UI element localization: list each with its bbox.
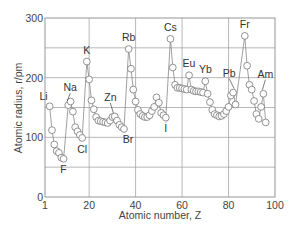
element-label-am: Am — [258, 68, 274, 80]
data-point — [155, 99, 162, 106]
element-label-cs: Cs — [164, 21, 177, 33]
data-point — [121, 126, 128, 133]
data-point — [255, 115, 262, 122]
data-point — [125, 46, 132, 53]
x-axis-label: Atomic number, Z — [119, 209, 202, 221]
element-label-cl: Cl — [77, 143, 87, 155]
data-point — [248, 86, 255, 93]
data-point — [46, 103, 53, 110]
data-point — [83, 58, 90, 65]
data-point — [167, 35, 174, 42]
element-label-zn: Zn — [104, 91, 116, 103]
data-point — [88, 97, 95, 104]
data-point — [79, 135, 86, 142]
data-point — [260, 90, 267, 97]
element-label-f: F — [60, 163, 66, 175]
x-tick-label: 80 — [223, 199, 235, 211]
data-point — [230, 89, 237, 96]
leader-line — [262, 80, 265, 90]
data-point — [132, 98, 139, 105]
leader-line — [110, 103, 113, 113]
element-label-na: Na — [64, 81, 78, 93]
data-point — [128, 65, 135, 72]
data-point — [60, 155, 67, 162]
data-point — [186, 72, 193, 79]
leader-line — [229, 79, 234, 89]
data-point — [202, 78, 209, 85]
data-point — [69, 108, 76, 115]
data-point — [49, 127, 56, 134]
element-label-yb: Yb — [199, 63, 212, 75]
data-point — [86, 76, 93, 83]
series-line — [124, 49, 129, 129]
series-line — [236, 36, 245, 105]
data-point — [244, 62, 251, 69]
y-axis-label: Atomic radius, r/pm — [12, 63, 24, 154]
y-tick-label: 300 — [25, 12, 43, 24]
element-label-eu: Eu — [183, 57, 196, 69]
atomic-radius-chart: LiNaFClKZnBrRbICsEuYbPbFrAm 120406080100… — [0, 0, 291, 237]
series-line — [166, 39, 171, 118]
y-tick-label: 0 — [37, 191, 43, 203]
element-label-rb: Rb — [122, 31, 136, 43]
data-point — [130, 86, 137, 93]
series-line — [64, 105, 69, 159]
data-point — [251, 98, 258, 105]
y-tick-label: 200 — [25, 72, 43, 84]
data-point — [225, 104, 232, 111]
element-label-li: Li — [39, 90, 47, 102]
data-point — [51, 141, 58, 148]
data-point — [90, 106, 97, 113]
data-point — [262, 119, 269, 126]
element-label-k: K — [83, 44, 90, 56]
x-tick-label: 20 — [83, 199, 95, 211]
data-point — [241, 33, 248, 40]
series-line — [82, 62, 87, 138]
element-label-pb: Pb — [223, 67, 236, 79]
element-label-fr: Fr — [240, 18, 250, 30]
data-point — [204, 90, 211, 97]
data-point — [169, 64, 176, 71]
data-point — [258, 104, 265, 111]
data-point — [232, 101, 239, 108]
element-label-br: Br — [123, 133, 134, 145]
element-label-i: I — [164, 122, 167, 134]
data-point — [207, 99, 214, 106]
x-tick-label: 100 — [266, 199, 284, 211]
data-point — [162, 114, 169, 121]
y-tick-label: 100 — [25, 131, 43, 143]
